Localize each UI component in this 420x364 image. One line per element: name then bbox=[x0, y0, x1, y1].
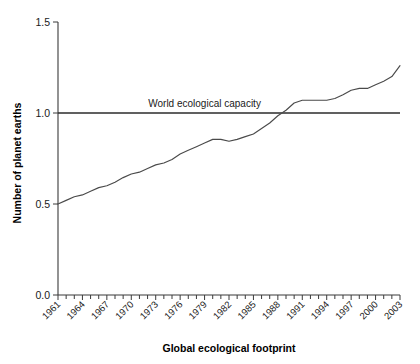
x-tick-label: 1967 bbox=[89, 299, 112, 322]
x-tick-label: 1961 bbox=[40, 299, 63, 322]
annotation-group: World ecological capacity bbox=[148, 98, 261, 109]
ecological-footprint-chart: 0.00.51.01.5 196119641967197019731976197… bbox=[0, 0, 420, 364]
x-tick-label: 1964 bbox=[64, 299, 87, 322]
y-tick-label: 1.5 bbox=[35, 16, 50, 28]
footprint-data-line bbox=[58, 66, 400, 204]
x-tick-label: 1997 bbox=[333, 299, 356, 322]
chart-canvas: 0.00.51.01.5 196119641967197019731976197… bbox=[0, 0, 420, 364]
x-tick-label: 1985 bbox=[235, 299, 258, 322]
x-tick-label: 1994 bbox=[308, 299, 331, 322]
y-axis: 0.00.51.01.5 bbox=[35, 16, 58, 301]
y-tick-label: 0.0 bbox=[35, 289, 50, 301]
x-tick-label: 1982 bbox=[211, 299, 234, 322]
data-series-group bbox=[58, 66, 400, 204]
x-axis: 1961196419671970197319761979198219851988… bbox=[40, 295, 405, 321]
x-tick-label: 2003 bbox=[382, 299, 405, 322]
y-axis-title: Number of planet earths bbox=[11, 102, 23, 223]
x-tick-label: 1976 bbox=[162, 299, 185, 322]
y-tick-label: 1.0 bbox=[35, 107, 50, 119]
x-axis-title: Global ecological footprint bbox=[162, 342, 296, 354]
world-ecological-capacity-label: World ecological capacity bbox=[148, 98, 261, 109]
y-tick-label: 0.5 bbox=[35, 198, 50, 210]
x-tick-label: 1991 bbox=[284, 299, 307, 322]
x-tick-label: 1979 bbox=[186, 299, 209, 322]
x-tick-label: 1973 bbox=[137, 299, 160, 322]
x-tick-label: 1988 bbox=[260, 299, 283, 322]
x-tick-label: 2000 bbox=[357, 299, 380, 322]
x-tick-label: 1970 bbox=[113, 299, 136, 322]
